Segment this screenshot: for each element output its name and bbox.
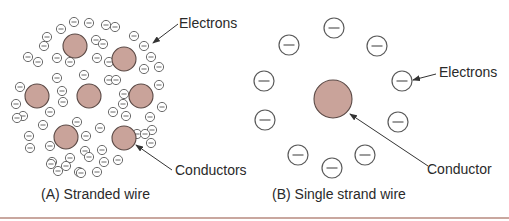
electron-icon xyxy=(140,129,149,138)
conductor-label: Conductor xyxy=(427,161,492,177)
electron-icon xyxy=(388,112,408,132)
electron-icon xyxy=(254,71,274,91)
caption-stranded-wire: (A) Stranded wire xyxy=(41,186,150,202)
electron-icon xyxy=(355,145,375,165)
electron-icon xyxy=(84,152,93,161)
electron-icon xyxy=(145,112,154,121)
electron-icon xyxy=(99,157,108,166)
electron-icon xyxy=(121,111,130,120)
electrons-pointer-arrow xyxy=(413,74,436,80)
electron-icon xyxy=(15,82,24,91)
electron-icon xyxy=(72,117,81,126)
electron-icon xyxy=(129,31,138,40)
electron-icon xyxy=(76,168,85,177)
electron-icon xyxy=(81,131,90,140)
electron-icon xyxy=(57,86,66,95)
electron-icon xyxy=(25,143,34,152)
electron-icon xyxy=(101,20,110,29)
conductors-label: Conductors xyxy=(175,162,247,178)
electron-icon xyxy=(279,35,299,55)
electron-icon xyxy=(98,39,107,48)
electron-icon xyxy=(139,41,148,50)
conductor-strand xyxy=(314,80,352,118)
electron-icon xyxy=(367,36,387,56)
conductor-strand xyxy=(112,126,136,150)
electron-icon xyxy=(38,120,47,129)
electron-icon xyxy=(79,70,88,79)
electron-icon xyxy=(42,32,51,41)
electron-icon xyxy=(322,158,342,178)
electron-icon xyxy=(61,161,70,170)
electron-icon xyxy=(92,53,101,62)
electron-icon xyxy=(58,97,67,106)
electron-icon xyxy=(113,155,122,164)
conductor-strand xyxy=(25,84,49,108)
electrons-label-a: Electrons xyxy=(179,15,237,31)
conductor-group xyxy=(314,80,352,118)
bottom-rule xyxy=(0,217,509,219)
electron-icon xyxy=(118,99,127,108)
electron-icon xyxy=(33,57,42,66)
electron-icon xyxy=(288,145,308,165)
electron-icon xyxy=(111,75,120,84)
electron-icon xyxy=(11,99,20,108)
conductor-strand xyxy=(54,125,78,149)
electron-icon xyxy=(139,64,148,73)
electron-icon xyxy=(53,166,62,175)
conductor-strand xyxy=(77,84,101,108)
electron-icon xyxy=(12,113,21,122)
single-strand-panel xyxy=(254,18,436,178)
electron-icon xyxy=(23,52,32,61)
electron-icon xyxy=(324,18,344,38)
conductor-strand xyxy=(63,34,87,58)
electron-icon xyxy=(52,73,61,82)
electron-icon xyxy=(392,71,412,91)
caption-single-strand-wire: (B) Single strand wire xyxy=(272,186,406,202)
electron-icon xyxy=(119,89,128,98)
electron-icon xyxy=(24,131,33,140)
electron-icon xyxy=(97,145,106,154)
electron-icon xyxy=(92,167,101,176)
electron-icon xyxy=(45,141,54,150)
stranded-wire-panel xyxy=(11,17,178,177)
electron-icon xyxy=(46,159,55,168)
electron-icon xyxy=(95,123,104,132)
electrons-label-b: Electrons xyxy=(439,64,497,80)
electron-icon xyxy=(39,41,48,50)
electron-icon xyxy=(84,18,93,27)
electron-icon xyxy=(56,24,65,33)
electron-icon xyxy=(69,17,78,26)
electron-icon xyxy=(154,62,163,71)
electron-icon xyxy=(146,138,155,147)
conductors-pointer-arrow xyxy=(136,145,172,170)
electron-icon xyxy=(45,107,54,116)
electron-icon xyxy=(154,80,163,89)
electron-icon xyxy=(255,110,275,130)
electron-icon xyxy=(146,52,155,61)
electrons-pointer-arrow xyxy=(153,24,178,43)
electron-icon xyxy=(157,102,166,111)
electron-icon xyxy=(65,57,74,66)
electron-icon xyxy=(52,53,61,62)
conductor-strand xyxy=(129,84,153,108)
electron-icon xyxy=(108,107,117,116)
conductor-strand xyxy=(112,47,136,71)
electron-icon xyxy=(110,22,119,31)
